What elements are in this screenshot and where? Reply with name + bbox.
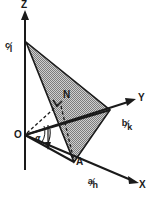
x-intercept-fraction: a⁄h	[88, 177, 98, 188]
x-intercept-denominator: h	[93, 180, 99, 190]
foot-of-normal-label: N	[63, 90, 70, 100]
y-intercept-denominator: k	[127, 122, 132, 132]
miller-index-diagram: Z Y X O N A α c⁄l b⁄k a⁄h	[0, 0, 150, 204]
origin-label: O	[14, 130, 22, 140]
y-axis-arrowhead	[125, 98, 136, 106]
diagram-canvas	[0, 0, 150, 204]
x-axis-label: X	[139, 180, 146, 190]
alpha-angle-label: α	[35, 135, 41, 143]
shaded-plane-triangle	[26, 42, 110, 162]
y-intercept-fraction: b⁄k	[122, 119, 132, 130]
z-intercept-denominator: l	[10, 44, 13, 54]
z-axis-label: Z	[21, 0, 27, 10]
x-axis-arrowhead	[128, 176, 139, 184]
x-intercept-point-label: A	[76, 157, 83, 167]
z-axis-arrowhead	[21, 10, 29, 20]
y-axis-label: Y	[138, 93, 145, 103]
z-intercept-fraction: c⁄l	[5, 41, 12, 52]
x-intercept-numerator: a	[88, 176, 93, 186]
